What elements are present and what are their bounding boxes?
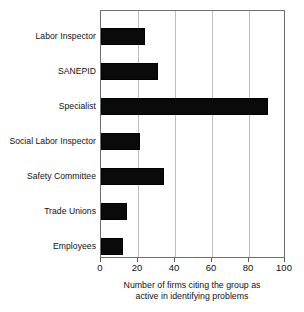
gridline-40 [175,11,176,257]
category-label: Specialist [0,101,96,111]
x-tick-label: 60 [206,262,217,274]
category-label: Safety Committee [0,171,96,181]
bar-specialist [101,98,268,115]
bar-sanepid [101,63,158,80]
bar-trade-unions [101,203,127,220]
bar-labor-inspector [101,28,145,45]
x-tick-label: 100 [276,262,292,274]
gridline-60 [212,11,213,257]
x-axis-title-line-2: active in identifying problems [92,291,292,302]
bar-employees [101,238,123,255]
category-axis-labels: Labor Inspector SANEPID Specialist Socia… [0,10,96,258]
x-tick-label: 80 [243,262,254,274]
category-label: SANEPID [0,66,96,76]
bar-chart: Labor Inspector SANEPID Specialist Socia… [0,0,304,312]
category-label: Employees [0,241,96,251]
bar-safety-committee [101,168,164,185]
x-tick-label: 0 [97,262,102,274]
bar-social-labor-inspector [101,133,140,150]
category-label: Labor Inspector [0,31,96,41]
category-label: Social Labor Inspector [0,136,96,146]
gridline-80 [249,11,250,257]
x-tick-label: 20 [132,262,143,274]
x-tick-label: 40 [169,262,180,274]
x-axis-title-line-1: Number of firms citing the group as [92,280,292,291]
plot-area [100,10,285,258]
x-axis-tick-labels: 0 20 40 60 80 100 [100,262,285,276]
category-label: Trade Unions [0,206,96,216]
x-axis-title: Number of firms citing the group as acti… [92,280,292,302]
